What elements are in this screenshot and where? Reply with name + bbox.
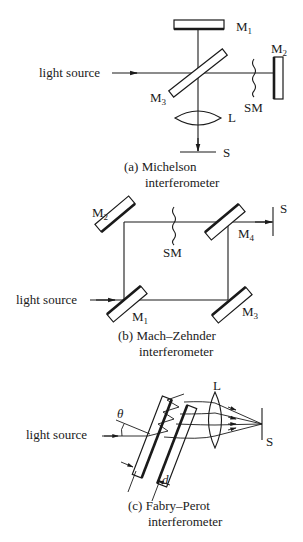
- lens-l: [209, 392, 222, 448]
- label-m2: M2: [92, 205, 108, 222]
- label-m3: M3: [150, 90, 167, 107]
- fabry-perot-panel: θ L S d light source (c) Fabry–Perot int…: [26, 378, 273, 529]
- caption-mach-zehnder: (b) Mach–Zehnder: [118, 328, 216, 343]
- label-lens: L: [228, 110, 236, 125]
- label-sm: SM: [244, 100, 263, 115]
- caption-michelson: (a) Michelson: [124, 159, 197, 174]
- label-d: d: [162, 472, 169, 487]
- label-theta: θ: [117, 406, 124, 421]
- caption-michelson-line2: interferometer: [145, 175, 220, 190]
- mach-zehnder-panel: M2 M4 M1 M3 SM S light source (b) Mach–Z…: [16, 196, 287, 359]
- label-sm: SM: [163, 245, 182, 260]
- label-m3: M3: [242, 304, 259, 321]
- michelson-panel: M1 M2 M3 SM L S light source (a) Michels…: [39, 19, 287, 190]
- label-lens: L: [213, 378, 221, 393]
- caption-fabry-perot: (c) Fabry–Perot: [128, 498, 210, 513]
- label-m4: M4: [238, 226, 255, 243]
- caption-fabry-perot-line2: interferometer: [148, 514, 223, 529]
- label-m1: M1: [236, 19, 252, 36]
- mirror-m2: [274, 57, 283, 99]
- interferometer-figure: M1 M2 M3 SM L S light source (a) Michels…: [0, 0, 303, 542]
- label-light-source: light source: [16, 292, 77, 307]
- label-screen: S: [223, 145, 230, 160]
- mirror-m1: [174, 20, 224, 29]
- sample-medium-wave-icon: [253, 59, 256, 97]
- caption-mach-zehnder-line2: interferometer: [139, 344, 214, 359]
- arrow-icon: [228, 428, 236, 430]
- sample-medium-wave-icon: [173, 207, 176, 245]
- label-light-source: light source: [39, 65, 100, 80]
- output-ray-2: [176, 424, 262, 425]
- label-screen: S: [266, 434, 273, 449]
- label-screen: S: [280, 201, 287, 216]
- label-m1: M1: [132, 309, 148, 326]
- angle-arc: [121, 424, 124, 436]
- label-light-source: light source: [26, 427, 87, 442]
- label-m2: M2: [271, 41, 287, 58]
- arrow-icon: [121, 462, 133, 467]
